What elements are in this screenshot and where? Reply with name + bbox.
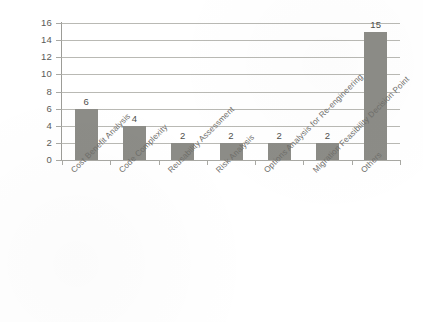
bar-chart: 0246810121416 64222215 Cost Benefit Anal… [0, 0, 423, 322]
x-axis-tick [255, 160, 256, 165]
gridline [62, 57, 400, 58]
y-axis-tick-label: 6 [8, 104, 52, 114]
y-axis-tick-label: 14 [8, 35, 52, 45]
bar-value-label: 6 [66, 97, 106, 107]
y-axis-tick-label: 12 [8, 52, 52, 62]
x-axis-tick [110, 160, 111, 165]
y-axis-tick-label: 16 [8, 18, 52, 28]
x-axis-tick [159, 160, 160, 165]
y-axis-tick-label: 10 [8, 69, 52, 79]
x-axis-tick [303, 160, 304, 165]
gridline [62, 40, 400, 41]
y-axis-tick-label: 4 [8, 121, 52, 131]
y-axis-tick-label: 8 [8, 87, 52, 97]
x-axis-tick [400, 160, 401, 165]
x-axis-tick [352, 160, 353, 165]
y-axis-tick-label: 2 [8, 138, 52, 148]
gridline [62, 74, 400, 75]
bar-value-label: 15 [356, 20, 396, 30]
gridline [62, 23, 400, 24]
y-axis-tick-label: 0 [8, 155, 52, 165]
x-axis-tick [62, 160, 63, 165]
x-axis-tick [207, 160, 208, 165]
